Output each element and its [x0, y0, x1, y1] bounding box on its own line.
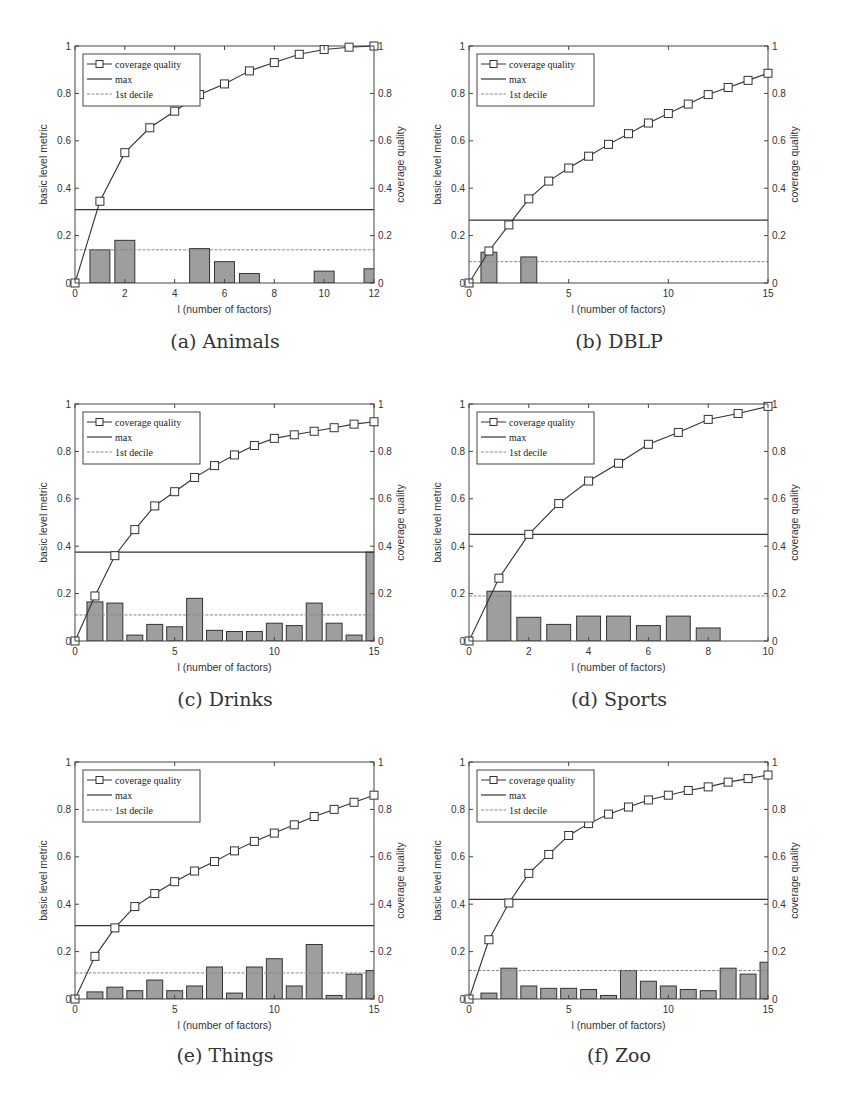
- chart-panel-things: 000.20.20.40.40.60.60.80.811051015l (num…: [0, 716, 400, 1074]
- bar: [306, 944, 322, 999]
- y-tick-label: 0.2: [57, 230, 71, 241]
- y-tick-label: 0.8: [57, 804, 71, 815]
- caption-animals: (a) Animals: [25, 330, 425, 352]
- square-marker-icon: [370, 791, 378, 799]
- plot-area: [75, 552, 382, 641]
- y-tick-label-right: 0.4: [378, 899, 392, 910]
- y-tick-label: 0.4: [57, 183, 71, 194]
- y-tick-label-right: 0.8: [772, 88, 786, 99]
- square-marker-icon: [674, 428, 682, 436]
- plot-area: [469, 899, 776, 999]
- y-tick-label-right: 0.6: [772, 493, 786, 504]
- square-marker-icon: [350, 420, 358, 428]
- square-marker-icon: [684, 100, 692, 108]
- y-tick-label-right: 0.2: [772, 588, 786, 599]
- square-marker-icon: [121, 149, 129, 157]
- y-tick-label-right: 0.4: [772, 899, 786, 910]
- square-marker-icon: [704, 415, 712, 423]
- legend: coverage qualitymax1st decile: [477, 412, 594, 464]
- square-marker-icon: [345, 43, 353, 51]
- legend: coverage qualitymax1st decile: [83, 54, 200, 106]
- y-tick-label: 0.6: [451, 135, 465, 146]
- bar: [326, 623, 342, 641]
- chart-panel-sports: 000.20.20.40.40.60.60.80.8110246810l (nu…: [394, 358, 794, 716]
- y-tick-label-right: 0.6: [378, 851, 392, 862]
- square-marker-icon: [684, 786, 692, 794]
- square-marker-icon: [764, 771, 772, 779]
- square-marker-icon: [565, 831, 573, 839]
- y-tick-label: 0.4: [451, 541, 465, 552]
- y-tick-label: 0.2: [451, 230, 465, 241]
- y-tick-label: 0.4: [451, 899, 465, 910]
- chart-animals: 000.20.20.40.40.60.60.80.811024681012l (…: [0, 0, 400, 320]
- y-tick-label-right: 0.2: [772, 946, 786, 957]
- y-tick-label: 0.8: [451, 88, 465, 99]
- y-axis-label: basic level metric: [37, 840, 49, 921]
- y-tick-label-right: 0.6: [772, 851, 786, 862]
- square-marker-icon: [310, 813, 318, 821]
- square-marker-icon: [644, 440, 652, 448]
- legend-label-decile: 1st decile: [509, 805, 548, 816]
- y-tick-label-right: 0: [378, 636, 384, 647]
- bar: [207, 630, 223, 641]
- bar: [226, 993, 242, 999]
- bar: [541, 988, 557, 999]
- legend-label-coverage: coverage quality: [115, 775, 181, 786]
- chart-dblp: 000.20.20.40.40.60.60.80.811051015l (num…: [394, 0, 794, 320]
- square-marker-icon: [485, 936, 493, 944]
- square-marker-icon: [545, 850, 553, 858]
- square-marker-icon: [230, 451, 238, 459]
- y-tick-label: 1: [65, 41, 71, 52]
- bar: [147, 624, 163, 641]
- bar: [346, 974, 362, 999]
- bar: [187, 598, 203, 641]
- x-tick-label: 5: [566, 1004, 572, 1015]
- square-marker-icon: [191, 867, 199, 875]
- x-tick-label: 4: [172, 288, 178, 299]
- bar: [346, 635, 362, 641]
- y-tick-label-right: 0.2: [772, 230, 786, 241]
- bar: [286, 626, 302, 641]
- bar: [187, 986, 203, 999]
- y-axis-label: basic level metric: [431, 124, 443, 205]
- bar: [521, 986, 537, 999]
- x-tick-label: 0: [466, 1004, 472, 1015]
- bar: [487, 591, 511, 641]
- y-axis-label: basic level metric: [37, 124, 49, 205]
- legend: coverage qualitymax1st decile: [83, 412, 200, 464]
- x-tick-label: 5: [566, 288, 572, 299]
- y-tick-label-right: 1: [772, 399, 778, 410]
- bar: [246, 967, 262, 999]
- x-tick-label: 8: [272, 288, 278, 299]
- y-axis-label-right: coverage quality: [788, 126, 800, 203]
- square-marker-icon: [290, 431, 298, 439]
- y-tick-label: 0.6: [57, 135, 71, 146]
- y-tick-label: 0: [65, 994, 71, 1005]
- square-marker-icon: [91, 952, 99, 960]
- x-tick-label: 10: [319, 288, 331, 299]
- bar: [306, 603, 322, 641]
- legend: coverage qualitymax1st decile: [477, 770, 594, 822]
- bar: [286, 986, 302, 999]
- square-marker-icon: [744, 76, 752, 84]
- legend-label-max: max: [509, 74, 526, 85]
- legend: coverage qualitymax1st decile: [83, 770, 200, 822]
- square-marker-icon: [505, 221, 513, 229]
- y-tick-label: 1: [459, 399, 465, 410]
- x-tick-label: 15: [368, 646, 380, 657]
- x-tick-label: 15: [368, 1004, 380, 1015]
- square-marker-icon: [310, 427, 318, 435]
- y-tick-label-right: 0: [378, 278, 384, 289]
- y-tick-label-right: 0.8: [378, 804, 392, 815]
- square-marker-icon: [704, 783, 712, 791]
- bar: [501, 968, 517, 999]
- plot-area: [75, 926, 382, 999]
- legend-label-coverage: coverage quality: [115, 59, 181, 70]
- x-tick-label: 5: [172, 646, 178, 657]
- bar: [620, 971, 636, 999]
- bar: [90, 250, 110, 283]
- caption-zoo: (f) Zoo: [419, 1044, 819, 1066]
- square-marker-icon: [605, 140, 613, 148]
- bar: [147, 980, 163, 999]
- chart-sports: 000.20.20.40.40.60.60.80.8110246810l (nu…: [394, 358, 794, 678]
